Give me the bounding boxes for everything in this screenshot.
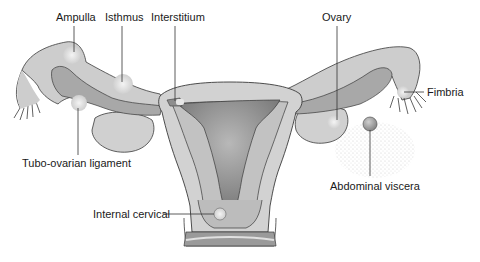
label-ovary: Ovary	[322, 11, 351, 23]
label-internal-cervical: Internal cervical	[93, 208, 170, 220]
uterus-body	[159, 82, 302, 246]
label-isthmus: Isthmus	[105, 11, 144, 23]
label-ampulla: Ampulla	[56, 11, 96, 23]
left-fallopian-tube	[14, 42, 165, 152]
label-abdominal-viscera: Abdominal viscera	[330, 180, 420, 192]
label-tubo-ovarian-ligament: Tubo-ovarian ligament	[22, 157, 131, 169]
label-fimbria: Fimbria	[427, 86, 464, 98]
label-interstitium: Interstitium	[151, 11, 205, 23]
uterus-diagram	[0, 0, 480, 262]
